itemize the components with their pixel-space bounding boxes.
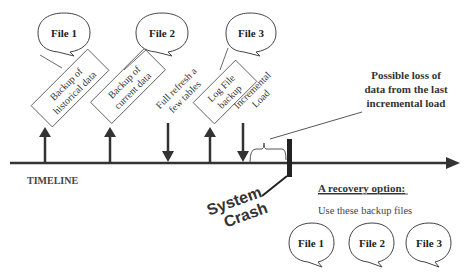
arrow-up-icon: [204, 127, 216, 137]
recovery-subtitle: Use these backup files: [318, 205, 412, 216]
file-bubble-3: File 3: [220, 13, 276, 70]
event-arrow-backup-historical: [39, 127, 51, 163]
label-backup-current: Backup of current data: [91, 49, 166, 124]
crash-marker: [287, 139, 292, 177]
arrow-up-icon: [39, 127, 51, 137]
svg-text:File 1: File 1: [51, 27, 77, 39]
arrow-up-icon: [104, 127, 116, 137]
arrow-down-icon: [237, 151, 249, 162]
recovery-file-2: File 2: [349, 223, 394, 267]
timeline-label: TIMELINE: [27, 175, 78, 186]
svg-text:incremental load: incremental load: [367, 97, 446, 109]
event-arrow-incremental-load: [237, 123, 249, 162]
backup-recovery-diagram: TIMELINE Backup of historical data Backu…: [0, 0, 473, 278]
recovery-section: A recovery option: Use these backup file…: [289, 182, 451, 267]
timeline: [10, 157, 460, 169]
event-arrow-log-file-backup: [204, 127, 216, 163]
loss-note: Possible loss of data from the last incr…: [364, 69, 448, 109]
svg-text:File 3: File 3: [416, 237, 442, 249]
svg-text:File 1: File 1: [298, 237, 324, 249]
arrow-down-icon: [162, 151, 174, 162]
event-arrow-backup-current: [104, 127, 116, 163]
recovery-file-1: File 1: [289, 223, 334, 267]
event-arrow-full-refresh: [162, 123, 174, 162]
system-crash-label: System Crash: [204, 183, 269, 234]
svg-text:File 2: File 2: [359, 237, 385, 249]
recovery-file-3: File 3: [406, 223, 451, 267]
svg-text:Possible loss of: Possible loss of: [371, 69, 441, 81]
recovery-title: A recovery option:: [318, 182, 405, 194]
label-backup-historical: Backup of historical data: [31, 49, 109, 127]
svg-text:File 3: File 3: [238, 27, 264, 39]
timeline-arrowhead-icon: [446, 157, 460, 169]
svg-text:data from the last: data from the last: [364, 83, 448, 95]
loss-note-connector: [270, 112, 362, 139]
svg-text:File 2: File 2: [149, 27, 175, 39]
crash-connector: [262, 176, 287, 196]
loss-interval-brace-icon: [250, 143, 286, 162]
